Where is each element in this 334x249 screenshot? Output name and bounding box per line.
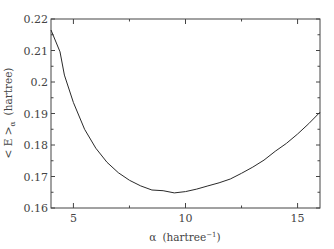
y-axis-ticks: 0.160.170.180.190.20.210.22: [24, 13, 321, 215]
y-tick-label: 0.16: [24, 202, 49, 215]
y-tick-label: 0.21: [24, 45, 49, 58]
y-tick-label: 0.22: [24, 13, 49, 26]
y-tick-label: 0.18: [24, 139, 49, 152]
x-tick-label: 10: [179, 212, 193, 225]
y-tick-label: 0.19: [24, 108, 49, 121]
plot-frame: [51, 19, 320, 208]
y-tick-label: 0.2: [31, 76, 49, 89]
plot-border: [51, 19, 320, 208]
y-axis-label: < E >α(hartree): [2, 68, 17, 159]
data-series-line: [51, 30, 320, 193]
x-axis-ticks: 51015: [70, 19, 305, 225]
y-tick-label: 0.17: [24, 171, 49, 184]
line-chart: 0.160.170.180.190.20.210.22 51015 α(hart…: [0, 0, 334, 249]
x-axis-label: α(hartree−1): [149, 231, 220, 243]
x-tick-label: 5: [70, 212, 77, 225]
x-tick-label: 15: [291, 212, 305, 225]
